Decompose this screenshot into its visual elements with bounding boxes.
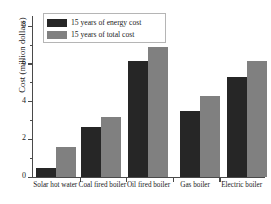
bar-total-cost — [56, 147, 76, 177]
y-tick-mark — [28, 63, 33, 64]
bar-energy-cost — [81, 127, 101, 177]
bar-energy-cost — [36, 168, 56, 177]
y-tick-label: 4 — [13, 96, 26, 105]
y-tick-mark — [28, 101, 33, 102]
y-tick-mark — [28, 26, 33, 27]
y-tick-mark — [28, 139, 33, 140]
y-minor-tick-mark — [30, 120, 33, 121]
chart-legend: 15 years of energy cost 15 years of tota… — [43, 13, 166, 43]
legend-swatch-total-cost — [47, 31, 67, 39]
x-axis-category-labels: Solar hot waterCoal fired boilerOil fire… — [32, 181, 265, 197]
y-minor-tick-mark — [30, 45, 33, 46]
bar-chart-figure: Cost (million dollars) 02468 Solar hot w… — [0, 0, 271, 204]
bar-total-cost — [200, 96, 220, 177]
y-tick-label: 8 — [13, 20, 26, 29]
bar-total-cost — [101, 117, 121, 177]
bar-total-cost — [247, 61, 267, 177]
bar-total-cost — [148, 47, 168, 177]
legend-swatch-energy-cost — [47, 19, 67, 27]
y-minor-tick-mark — [30, 82, 33, 83]
y-tick-label: 2 — [13, 133, 26, 142]
legend-item-total-cost: 15 years of total cost — [47, 29, 162, 41]
legend-label-total-cost: 15 years of total cost — [71, 30, 134, 39]
y-tick-label: 6 — [13, 58, 26, 67]
y-tick-mark — [28, 177, 33, 178]
x-axis-label-coal-fired-boiler: Coal fired boiler — [79, 181, 126, 189]
x-axis-label-electric-boiler: Electric boiler — [218, 181, 265, 189]
bar-energy-cost — [128, 61, 148, 177]
legend-label-energy-cost: 15 years of energy cost — [71, 18, 141, 27]
x-axis-label-solar-hot-water: Solar hot water — [32, 181, 79, 189]
bar-energy-cost — [180, 111, 200, 177]
bar-energy-cost — [227, 77, 247, 177]
x-axis-label-gas-boiler: Gas boiler — [172, 181, 219, 189]
y-minor-tick-mark — [30, 158, 33, 159]
legend-item-energy-cost: 15 years of energy cost — [47, 17, 162, 29]
y-tick-label: 0 — [13, 171, 26, 180]
x-axis-label-oil-fired-boiler: Oil fired boiler — [125, 181, 172, 189]
